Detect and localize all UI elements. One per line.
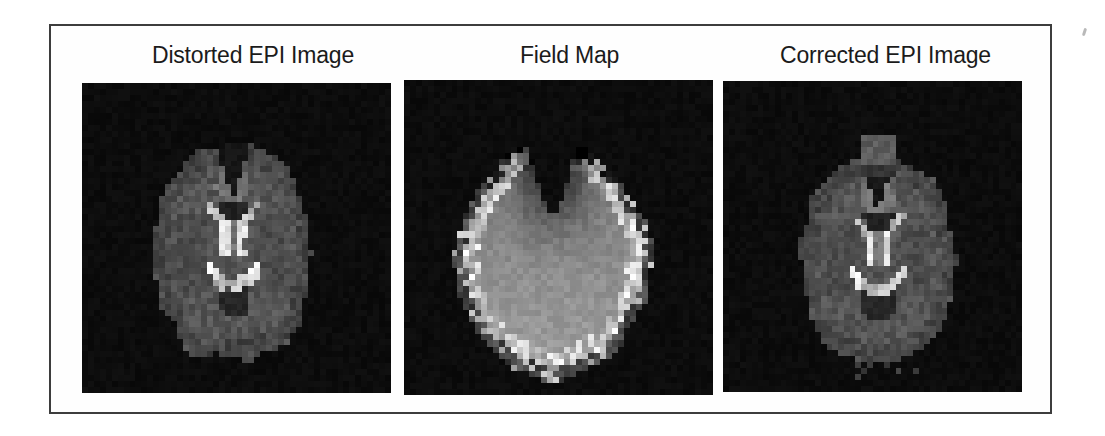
distorted-epi-image <box>82 83 391 393</box>
scan-artifact-speck <box>1082 28 1087 37</box>
panel-title-distorted-epi: Distorted EPI Image <box>152 42 354 69</box>
field-map-image <box>404 80 713 395</box>
panel-title-field-map: Field Map <box>520 42 619 69</box>
panel-title-corrected-epi: Corrected EPI Image <box>780 42 991 69</box>
corrected-epi-image <box>723 81 1022 392</box>
